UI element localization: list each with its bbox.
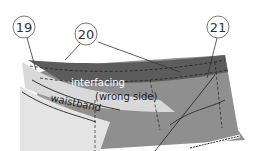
- wrong-side-label: (wrong side): [95, 91, 157, 102]
- interfacing-label: interfacing: [71, 77, 125, 88]
- callout-20: 20: [75, 23, 97, 45]
- callout-20-label: 20: [78, 27, 95, 42]
- sewing-diagram: 19 20 21 interfacing (wrong side) waistb…: [0, 0, 253, 151]
- callout-21-label: 21: [210, 20, 227, 35]
- callout-19-label: 19: [16, 20, 33, 35]
- callout-19: 19: [13, 16, 35, 38]
- callout-21: 21: [207, 16, 229, 38]
